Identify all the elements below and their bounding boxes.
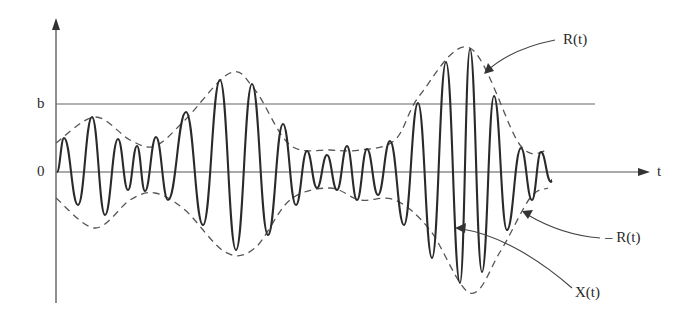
neg-r-annotation-arrow-icon xyxy=(522,210,533,219)
signal-waveform xyxy=(57,49,552,283)
signal-label: X(t) xyxy=(575,285,600,300)
lower-envelope-label: – R(t) xyxy=(605,230,640,245)
x-annotation-arrow-icon xyxy=(455,223,466,233)
diagram-canvas xyxy=(0,0,690,317)
y-axis-arrow-icon xyxy=(52,18,60,30)
neg-r-annotation-leader xyxy=(528,215,600,238)
envelope-diagram: b 0 t R(t) – R(t) X(t) xyxy=(0,0,690,317)
zero-axis-label: 0 xyxy=(37,164,45,179)
r-annotation-leader xyxy=(488,40,555,70)
t-axis-label: t xyxy=(657,164,661,179)
upper-envelope-label: R(t) xyxy=(563,32,587,47)
t-axis-arrow-icon xyxy=(638,168,650,176)
lower-envelope-curve xyxy=(56,188,548,293)
b-axis-label: b xyxy=(37,96,45,111)
